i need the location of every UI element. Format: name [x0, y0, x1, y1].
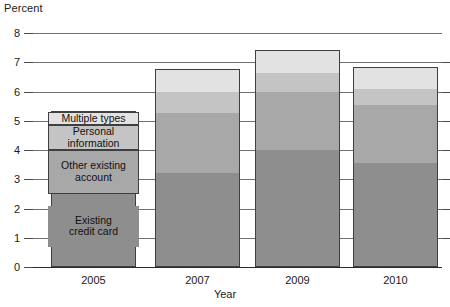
- y-tick-label-1: 1: [4, 232, 20, 244]
- bar-segment-2009-other-existing-account[interactable]: [255, 91, 340, 151]
- bar-segment-2009-existing-credit-card[interactable]: [255, 149, 340, 267]
- plot-area: 012345678 Multiple typesPersonalinformat…: [33, 33, 442, 267]
- y-tick-mark-right-7: [442, 62, 450, 63]
- legend-other-existing-account-label: Other existingaccount: [61, 160, 126, 183]
- y-tick-mark-0: [24, 267, 33, 268]
- x-tick-label-2010: 2010: [353, 274, 438, 286]
- y-tick-label-3: 3: [4, 173, 20, 185]
- y-tick-label-8: 8: [4, 27, 20, 39]
- y-tick-label-0: 0: [4, 261, 20, 273]
- bar-segment-2007-personal-information[interactable]: [155, 91, 240, 114]
- bar-segment-2007-multiple-types[interactable]: [155, 69, 240, 92]
- bar-segment-2010-other-existing-account[interactable]: [353, 104, 438, 164]
- x-axis-title: Year: [0, 288, 450, 300]
- legend-multiple-types-label: Multiple types: [61, 113, 125, 125]
- bar-group-2007[interactable]: [155, 33, 240, 267]
- bar-segment-2010-personal-information[interactable]: [353, 88, 438, 105]
- bar-segment-2007-existing-credit-card[interactable]: [155, 172, 240, 267]
- y-tick-mark-right-2: [442, 209, 450, 210]
- bar-group-2009[interactable]: [255, 33, 340, 267]
- y-axis-title: Percent: [4, 2, 43, 14]
- legend-multiple-types: Multiple types: [48, 112, 139, 125]
- y-tick-mark-3: [24, 179, 33, 180]
- y-tick-label-2: 2: [4, 203, 20, 215]
- legend-personal-information-label: Personalinformation: [68, 126, 120, 149]
- x-tick-label-2005: 2005: [51, 274, 136, 286]
- bar-segment-2009-multiple-types[interactable]: [255, 50, 340, 73]
- bar-group-2010[interactable]: [353, 33, 438, 267]
- bar-segment-2010-existing-credit-card[interactable]: [353, 162, 438, 267]
- bar-segment-2010-multiple-types[interactable]: [353, 67, 438, 88]
- legend-personal-information: Personalinformation: [48, 125, 139, 150]
- legend-other-existing-account: Other existingaccount: [48, 150, 139, 194]
- y-tick-mark-4: [24, 150, 33, 151]
- bar-segment-2007-other-existing-account[interactable]: [155, 112, 240, 173]
- y-tick-mark-right-4: [442, 150, 450, 151]
- y-tick-mark-right-3: [442, 179, 450, 180]
- x-tick-label-2007: 2007: [155, 274, 240, 286]
- y-tick-mark-2: [24, 209, 33, 210]
- y-tick-mark-right-6: [442, 92, 450, 93]
- y-tick-label-4: 4: [4, 144, 20, 156]
- bar-segment-2009-personal-information[interactable]: [255, 72, 340, 92]
- y-tick-mark-1: [24, 238, 33, 239]
- x-tick-label-2009: 2009: [255, 274, 340, 286]
- y-tick-mark-6: [24, 92, 33, 93]
- y-tick-label-6: 6: [4, 86, 20, 98]
- y-tick-label-7: 7: [4, 56, 20, 68]
- stacked-bar-chart: Percent 012345678 Multiple typesPersonal…: [0, 0, 450, 307]
- y-tick-mark-7: [24, 62, 33, 63]
- y-tick-mark-right-5: [442, 121, 450, 122]
- y-tick-mark-right-1: [442, 238, 450, 239]
- legend-existing-credit-card: Existingcredit card: [48, 206, 139, 247]
- y-tick-label-5: 5: [4, 115, 20, 127]
- legend-existing-credit-card-label: Existingcredit card: [69, 215, 118, 238]
- y-tick-mark-5: [24, 121, 33, 122]
- gridline-0: [33, 267, 442, 268]
- y-tick-mark-8: [24, 33, 33, 34]
